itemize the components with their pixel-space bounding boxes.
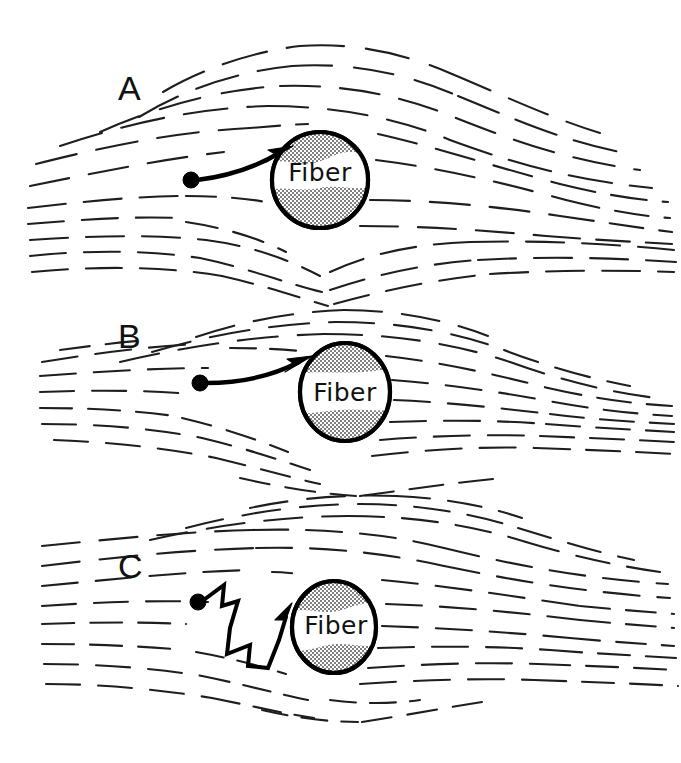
panel-label-c: C [118, 547, 143, 585]
fiber-label: Fiber [304, 611, 368, 640]
filtration-mechanism-figure: Fiber A [0, 0, 681, 763]
fiber-label: Fiber [288, 158, 352, 187]
particle-dot [192, 375, 208, 391]
particle-dot [183, 172, 199, 188]
fiber-label: Fiber [313, 378, 377, 407]
panel-label-a: A [118, 69, 141, 107]
particle-dot [190, 594, 206, 610]
panel-label-b: B [118, 317, 141, 355]
